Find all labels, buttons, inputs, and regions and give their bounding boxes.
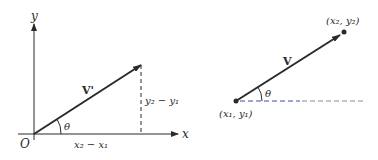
vector-diagrams: y x O V' θ y₂ − y₁ x₂ − x₁ V θ (x₁, y₁)	[0, 0, 378, 160]
end-point-label: (x₂, y₂)	[326, 15, 360, 26]
start-point	[234, 99, 239, 104]
vector-v-label: V	[282, 55, 292, 68]
horizontal-component-label: x₂ − x₁	[74, 139, 108, 150]
vector-v	[236, 35, 340, 101]
start-point-label: (x₁, y₁)	[219, 108, 253, 119]
angle-arc	[57, 119, 61, 134]
angle-label: θ	[64, 121, 70, 132]
right-diagram: V θ (x₁, y₁) (x₂, y₂)	[219, 15, 364, 119]
angle-label-right: θ	[265, 88, 271, 99]
vector-v-prime-label: V'	[81, 84, 94, 97]
vector-v-prime	[34, 65, 141, 134]
y-axis-label: y	[30, 9, 38, 23]
x-axis-label: x	[182, 127, 189, 141]
angle-arc-right	[258, 87, 262, 101]
left-diagram: y x O V' θ y₂ − y₁ x₂ − x₁	[18, 9, 189, 151]
origin-label: O	[20, 137, 30, 151]
vertical-component-label: y₂ − y₁	[144, 95, 179, 106]
end-point	[342, 30, 347, 35]
